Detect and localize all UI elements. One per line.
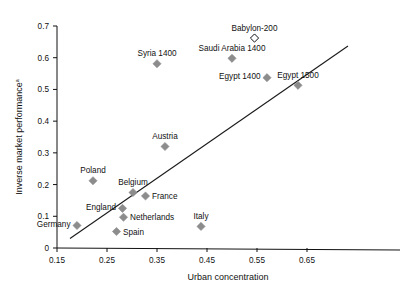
y-tick-label: 0.7 — [38, 22, 50, 31]
data-point-label: Egypt 1500 — [277, 71, 319, 80]
data-point-label: Belgium — [118, 178, 148, 187]
x-tick-label: 0.25 — [99, 256, 115, 265]
x-tick-label: 0.35 — [149, 256, 165, 265]
y-tick-label: 0 — [44, 244, 49, 253]
data-point-label: Spain — [123, 228, 144, 237]
y-axis-ticks: 00.10.20.30.40.50.60.7 — [38, 22, 57, 253]
data-point-label: England — [86, 203, 116, 212]
data-point-label: Italy — [193, 212, 209, 221]
y-axis-title: Inverse market performancea — [14, 79, 24, 195]
data-point-marker — [129, 188, 137, 196]
x-tick-label: 0.15 — [49, 256, 65, 265]
data-point-label: Saudi Arabia 1400 — [199, 44, 266, 53]
data-point-label: Netherlands — [130, 213, 174, 222]
x-tick-label: 0.65 — [299, 256, 315, 265]
data-point-marker — [161, 142, 169, 150]
chart-canvas: 0.150.250.350.450.550.65 00.10.20.30.40.… — [0, 0, 406, 297]
data-point-marker — [263, 74, 271, 82]
y-tick-label: 0.3 — [38, 149, 50, 158]
data-point-marker — [141, 192, 149, 200]
data-point-label: Austria — [152, 132, 178, 141]
x-axis-title: Urban concentration — [187, 272, 268, 282]
x-tick-label: 0.55 — [249, 256, 265, 265]
data-point-marker — [119, 213, 127, 221]
data-point-marker — [89, 177, 97, 185]
data-point-marker — [118, 204, 126, 212]
data-point-marker — [228, 54, 236, 62]
x-axis-line — [57, 248, 400, 250]
scatter-chart: 0.150.250.350.450.550.65 00.10.20.30.40.… — [0, 0, 406, 297]
data-point-label: Germany — [37, 220, 72, 229]
data-point-marker — [250, 34, 258, 42]
data-point-marker — [153, 60, 161, 68]
y-tick-label: 0.5 — [38, 85, 50, 94]
axes-group — [57, 26, 400, 250]
data-point-marker — [73, 221, 81, 229]
data-point-label: Babylon-200 — [232, 24, 278, 33]
y-axis-title-group: Inverse market performancea — [14, 79, 24, 195]
y-tick-label: 0.6 — [38, 54, 50, 63]
data-point-marker — [197, 222, 205, 230]
data-point-label: France — [152, 192, 178, 201]
data-point-label: Syria 1400 — [137, 49, 177, 58]
y-tick-label: 0.2 — [38, 181, 50, 190]
data-point-label: Egypt 1400 — [219, 72, 261, 81]
data-point-labels: GermanyPolandSpainEnglandNetherlandsBelg… — [37, 24, 319, 237]
data-point-marker — [112, 227, 120, 235]
data-point-label: Poland — [80, 166, 106, 175]
y-tick-label: 0.4 — [38, 117, 50, 126]
x-tick-label: 0.45 — [199, 256, 215, 265]
x-axis-ticks: 0.150.250.350.450.550.65 — [49, 248, 315, 265]
